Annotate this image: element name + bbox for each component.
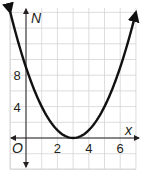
y-tick-label: 8 xyxy=(13,68,20,83)
x-tick-label: 2 xyxy=(54,141,61,156)
y-axis-label: N xyxy=(31,10,42,26)
x-tick-label: 4 xyxy=(85,141,92,156)
x-axis-label: x xyxy=(124,122,133,138)
parabola-chart: N x O 246 48 xyxy=(0,0,144,176)
y-tick-labels: 48 xyxy=(13,68,20,114)
origin-label: O xyxy=(12,140,23,156)
y-tick-label: 4 xyxy=(13,100,20,115)
x-tick-label: 6 xyxy=(117,141,124,156)
